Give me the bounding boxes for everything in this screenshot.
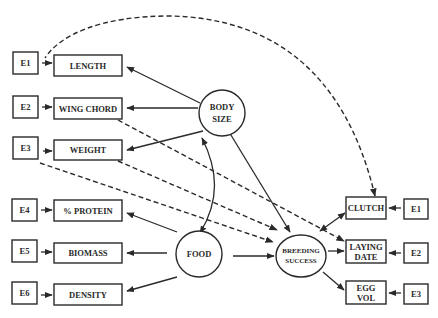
error-label: E2 [411,248,421,258]
indicator-weight: WEIGHT [54,140,122,160]
path-food-bodysize-correlation [200,138,215,233]
latent-food: FOOD [176,231,222,277]
latent-label-line1: BODY [210,102,235,112]
indicator-wing-chord: WING CHORD [54,98,122,119]
indicator-label-line2: VOL [357,293,376,303]
latent-label: FOOD [187,249,212,259]
indicator-label-line2: DATE [355,252,378,262]
error-box-right-e1: E1 [404,199,428,219]
path-bodysize-to-weight [127,131,203,150]
indicator-protein: % PROTEIN [54,200,122,221]
error-box-e3: E3 [13,137,38,159]
error-box-e6: E6 [12,282,37,304]
indicator-label: BIOMASS [68,248,107,258]
error-box-right-e3: E3 [404,284,428,304]
latent-label-line1: BREEDING [282,247,320,255]
error-label: E1 [21,58,31,68]
error-label: E3 [411,289,421,299]
error-label: E4 [20,205,31,215]
path-food-to-protein [127,213,177,232]
indicator-clutch: CLUTCH [346,197,386,219]
indicator-label: DENSITY [69,290,107,300]
path-breeding-to-clutch [320,213,345,231]
error-box-right-e2: E2 [404,243,428,263]
indicator-egg-vol: EGG VOL [346,281,386,304]
indicator-laying-date: LAYING DATE [346,240,386,263]
latent-label-line2: SUCCESS [285,257,317,265]
indicator-label: CLUTCH [348,203,385,213]
indicator-label-line1: LAYING [349,242,383,252]
path-bodysize-to-breeding [223,122,290,232]
error-box-e5: E5 [12,240,37,262]
indicator-label: % PROTEIN [63,206,113,216]
indicator-density: DENSITY [54,284,122,305]
latent-body-size: BODY SIZE [199,90,245,136]
path-diagram: E1 E2 E3 E4 E5 E6 LENGTH WING CHORD WEIG… [0,0,438,318]
error-label: E6 [20,288,30,298]
error-label: E3 [21,143,31,153]
error-label: E2 [21,102,31,112]
indicator-label: WING CHORD [59,104,117,114]
error-box-e4: E4 [12,199,37,221]
error-box-e1: E1 [13,52,38,74]
error-label: E5 [20,246,30,256]
indicator-label: LENGTH [70,61,107,71]
indicator-label-line1: EGG [357,283,376,293]
latent-label-line2: SIZE [212,114,232,124]
latent-breeding-success: BREEDING SUCCESS [276,235,326,277]
error-label: E1 [411,204,421,214]
indicator-label: WEIGHT [70,145,107,155]
path-breeding-to-eggvol [323,272,344,290]
error-box-e2: E2 [13,96,38,118]
path-bodysize-to-length [127,67,200,103]
indicator-length: LENGTH [54,55,122,76]
indicator-biomass: BIOMASS [54,243,122,263]
path-food-to-density [127,277,177,291]
